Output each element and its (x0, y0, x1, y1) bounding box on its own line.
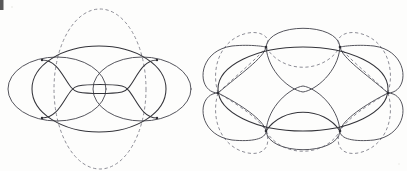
vertex-lower-left (41, 117, 43, 119)
vertex-lower-right (156, 117, 158, 119)
solid-lobe-bottom (266, 86, 340, 150)
right-main-ellipse (218, 47, 388, 131)
figure-board (0, 0, 407, 171)
vertex-upper-left (265, 46, 268, 49)
vertex-upper-left (41, 59, 43, 61)
dashed-lobe-upper-right (338, 33, 390, 93)
dashed-vertical-circle (54, 9, 146, 169)
paper-speck (11, 6, 13, 8)
solid-lobe-top (266, 28, 340, 92)
right-figure (203, 28, 403, 153)
dashed-inner-upper-arc (266, 47, 340, 67)
lower-wave-curve (42, 85, 157, 119)
solid-lobe-left-lower (203, 93, 266, 141)
right-side-circle (93, 57, 191, 121)
dashed-lobe-lower-left (216, 93, 268, 153)
dashed-lobe-lower-right (338, 93, 390, 153)
paper-speck (398, 163, 399, 164)
solid-lobe-left-upper (203, 45, 266, 93)
vertex-left (217, 92, 220, 95)
vertex-upper-right (156, 59, 158, 61)
solid-inner-lower-arc (266, 112, 340, 131)
vertex-lower-left (265, 130, 268, 133)
scan-corner-mark (0, 0, 4, 10)
left-figure (8, 9, 191, 169)
diagram-canvas (0, 0, 407, 171)
dashed-lobe-upper-left (216, 33, 268, 93)
vertex-lower-right (339, 130, 342, 133)
vertex-right (387, 92, 390, 95)
solid-lobe-right-upper (340, 45, 403, 93)
vertex-upper-right (339, 46, 342, 49)
solid-lobe-right-lower (340, 93, 403, 141)
upper-wave-curve (42, 60, 157, 94)
dashed-inner-lower-arc (266, 131, 340, 151)
